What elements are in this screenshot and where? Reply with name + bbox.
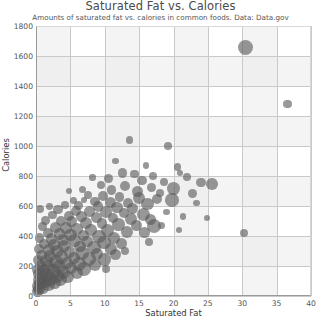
scatter-chart: Saturated Fat vs. Calories Amounts of sa…	[0, 0, 321, 320]
data-point	[110, 249, 121, 260]
data-point	[183, 173, 191, 181]
data-point	[126, 136, 133, 143]
y-tick-label: 400	[1, 232, 33, 241]
data-point	[283, 100, 291, 108]
x-tick-label: 40	[296, 299, 321, 308]
y-tick-label: 1400	[1, 82, 33, 91]
data-point	[36, 205, 44, 213]
data-point	[102, 265, 110, 273]
gridline-horizontal	[36, 296, 311, 297]
data-point	[206, 178, 218, 190]
data-point	[97, 181, 105, 189]
chart-subtitle: Amounts of saturated fat vs. calories in…	[0, 13, 321, 22]
x-tick-label: 20	[159, 299, 189, 308]
data-point	[158, 222, 165, 229]
x-tick-label: 30	[227, 299, 257, 308]
data-point	[238, 40, 253, 55]
data-point	[193, 200, 200, 207]
data-point	[149, 172, 157, 180]
y-tick-label: 200	[1, 262, 33, 271]
data-point	[121, 226, 133, 238]
data-point	[89, 259, 101, 271]
data-point	[89, 174, 95, 180]
x-tick-label: 15	[124, 299, 154, 308]
x-tick-label: 0	[21, 299, 51, 308]
data-point	[120, 181, 130, 191]
data-point	[139, 227, 149, 237]
y-tick-label: 1800	[1, 22, 33, 31]
chart-title: Saturated Fat vs. Calories	[0, 0, 321, 13]
gridline-vertical	[311, 26, 312, 296]
data-point	[66, 188, 72, 194]
data-point	[147, 183, 156, 192]
data-point	[118, 168, 127, 177]
data-point	[137, 176, 147, 186]
data-point	[145, 238, 153, 246]
y-tick-label: 1600	[1, 52, 33, 61]
data-point	[143, 162, 150, 169]
data-point	[81, 197, 87, 203]
data-point	[121, 247, 129, 255]
data-point	[240, 229, 248, 237]
x-tick-label: 10	[90, 299, 120, 308]
x-axis-title: Saturated Fat	[36, 308, 311, 318]
data-point	[180, 213, 186, 219]
data-points-layer	[36, 26, 311, 296]
plot-area	[36, 26, 311, 296]
data-point	[196, 178, 205, 187]
data-point	[46, 203, 53, 210]
x-tick-label: 5	[55, 299, 85, 308]
data-point	[204, 215, 210, 221]
data-point	[188, 189, 197, 198]
data-point	[163, 209, 170, 216]
y-axis-title: Calories	[1, 125, 11, 185]
data-point	[32, 286, 43, 297]
data-point	[176, 227, 182, 233]
data-point	[104, 174, 113, 183]
x-tick-label: 25	[193, 299, 223, 308]
data-point	[112, 158, 119, 165]
data-point	[165, 193, 179, 207]
y-tick-label: 1200	[1, 112, 33, 121]
y-tick-label: 600	[1, 202, 33, 211]
x-tick-label: 35	[262, 299, 292, 308]
data-point	[164, 142, 172, 150]
